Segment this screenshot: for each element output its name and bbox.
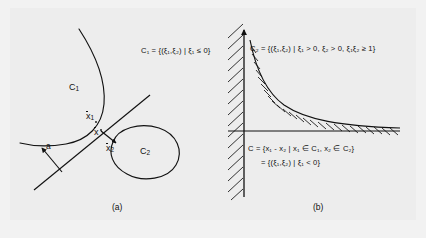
point-x1-marker — [95, 121, 97, 123]
equation-c1-text: C₁ = {(ξ₁,ξ₂) | ξ₁ ≤ 0} — [141, 46, 210, 55]
set-c2-subscript: 2 — [147, 149, 151, 156]
set-c2-hyperbola-curve — [250, 40, 400, 128]
equation-c-line2: = {(ξ₁,ξ₂) | ξ₁ < 0} — [261, 159, 320, 167]
point-x1-label: x1 — [86, 112, 94, 122]
normal-vector-a-label: a — [46, 142, 51, 151]
separating-hyperplane-line — [34, 95, 150, 190]
equation-c2: C₂ = {(ξ₁,ξ₂) | ξ₁ > 0, ξ₂ > 0, ξ₁ξ₂ ≥ 1… — [250, 45, 375, 53]
figure-root: C₁ = {(ξ₁,ξ₂) | ξ₁ ≤ 0} C1 C2 x1 x x2 a … — [0, 0, 426, 238]
equation-c-line1: C = {x₁ - x₂ | x₁ ∈ C₁, x₂ ∈ C₂} — [248, 145, 354, 153]
set-c2-hatching — [251, 46, 398, 135]
equation-c-line2-text: = {(ξ₁,ξ₂) | ξ₁ < 0} — [261, 158, 320, 167]
point-x2-label: x2 — [106, 144, 114, 154]
set-c1-subscript: 1 — [76, 85, 80, 92]
panel-a-caption: (a) — [112, 203, 122, 212]
point-x-label: x — [94, 128, 99, 137]
set-c2-label: C2 — [140, 147, 150, 157]
normal-vector-a-arrow — [42, 148, 62, 172]
equation-c1: C₁ = {(ξ₁,ξ₂) | ξ₁ ≤ 0} — [141, 47, 210, 55]
equation-c-line1-text: C = {x₁ - x₂ | x₁ ∈ C₁, x₂ ∈ C₂} — [248, 144, 354, 153]
point-x2-marker — [113, 140, 115, 142]
set-c1-boundary-curve — [20, 29, 104, 146]
point-x1-subscript: 1 — [91, 114, 95, 121]
figure-vector-layer — [0, 0, 426, 238]
set-c1-label: C1 — [69, 83, 79, 93]
point-x2-subscript: 2 — [111, 146, 115, 153]
point-x-marker — [100, 129, 102, 131]
equation-c2-text: C₂ = {(ξ₁,ξ₂) | ξ₁ > 0, ξ₂ > 0, ξ₁ξ₂ ≥ 1… — [250, 44, 375, 53]
panel-b-caption: (b) — [313, 203, 323, 212]
set-c-hatching — [228, 24, 243, 200]
